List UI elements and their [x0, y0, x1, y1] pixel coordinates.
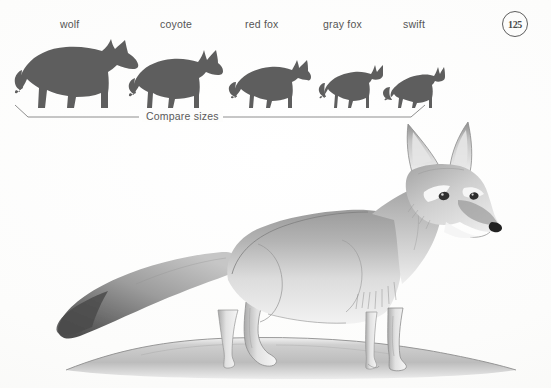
- silhouette-label-red-fox: red fox: [245, 18, 279, 30]
- silhouette-swift: [382, 62, 446, 110]
- silhouette-label-gray-fox: gray fox: [323, 18, 362, 30]
- silhouette-coyote: [128, 45, 224, 110]
- silhouette-label-swift: swift: [403, 18, 425, 30]
- silhouette-gray-fox: [318, 60, 384, 110]
- fox-body: [227, 210, 403, 324]
- silhouette-label-coyote: coyote: [160, 18, 192, 30]
- swift-fox-illustration: [46, 112, 551, 388]
- silhouette-label-wolf: wolf: [60, 18, 79, 30]
- silhouette-wolf: [14, 30, 140, 110]
- fox-tail: [56, 252, 239, 339]
- silhouette-red-fox: [228, 56, 312, 110]
- field-guide-page: 125 wolf coyote red fox gray fox swift: [0, 0, 551, 388]
- ground-mound: [66, 338, 516, 380]
